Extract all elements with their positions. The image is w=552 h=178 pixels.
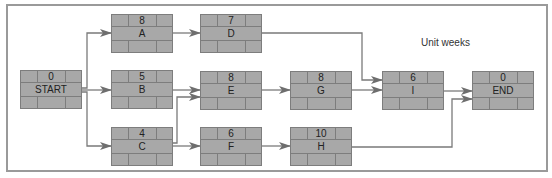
node-e: 8E <box>200 71 262 110</box>
node-label: I <box>383 84 443 98</box>
unit-label: Unit weeks <box>421 37 470 48</box>
node-label: D <box>201 27 261 41</box>
node-duration: 10 <box>307 128 335 140</box>
node-duration: 8 <box>217 72 245 84</box>
edges-layer <box>0 0 552 178</box>
node-a: 8A <box>111 14 173 53</box>
node-label: H <box>291 140 351 154</box>
node-duration: 0 <box>37 71 65 83</box>
node-duration: 8 <box>307 72 335 84</box>
node-f: 6F <box>200 127 262 166</box>
node-duration: 8 <box>128 15 156 27</box>
node-label: G <box>291 84 351 98</box>
node-h: 10H <box>290 127 352 166</box>
node-duration: 6 <box>399 72 427 84</box>
node-label: B <box>112 83 172 97</box>
node-c: 4C <box>111 127 173 166</box>
node-duration: 0 <box>489 72 517 84</box>
node-label: A <box>112 27 172 41</box>
edge-start-to-c <box>82 92 111 146</box>
node-duration: 6 <box>217 128 245 140</box>
edge-c-to-e <box>173 97 200 143</box>
node-b: 5B <box>111 70 173 109</box>
node-label: END <box>473 84 533 98</box>
node-duration: 5 <box>128 71 156 83</box>
node-d: 7D <box>200 14 262 53</box>
node-duration: 4 <box>128 128 156 140</box>
node-label: C <box>112 140 172 154</box>
node-duration: 7 <box>217 15 245 27</box>
node-label: E <box>201 84 261 98</box>
node-label: START <box>21 83 81 97</box>
node-start: 0START <box>20 70 82 109</box>
node-g: 8G <box>290 71 352 110</box>
edge-start-to-a <box>82 33 111 88</box>
node-label: F <box>201 140 261 154</box>
node-i: 6I <box>382 71 444 110</box>
node-end: 0END <box>472 71 534 110</box>
